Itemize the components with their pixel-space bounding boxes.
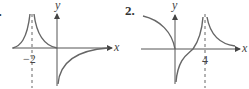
curve-2-right	[207, 17, 235, 46]
graph-2	[141, 14, 240, 88]
graph-2-number: 2.	[125, 3, 135, 19]
curve-1-left	[13, 14, 30, 48]
graph-2-y-label: y	[172, 0, 177, 13]
graph-1-y-label: y	[55, 0, 60, 13]
graph-2-tick-label: 4	[202, 53, 208, 68]
curve-1-mid	[34, 14, 57, 48]
curve-1-right	[58, 48, 108, 84]
graph-2-x-label: x	[242, 41, 247, 56]
graph-1-x-label: x	[114, 40, 119, 55]
curve-2-left	[143, 16, 175, 49]
graph-1-number: 1.	[0, 4, 2, 20]
graph-1-tick-label: −2	[23, 52, 36, 67]
graph-1	[12, 14, 112, 88]
